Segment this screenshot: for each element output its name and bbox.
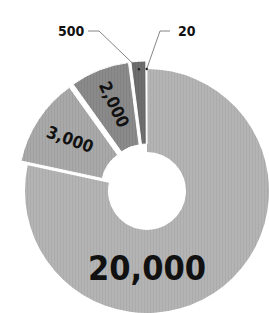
leader-dot <box>138 68 140 70</box>
leader-line-20 <box>147 31 170 69</box>
slice-label-20000: 20,000 <box>88 248 206 288</box>
leader-dot <box>145 68 147 70</box>
slice-label-500: 500 <box>58 23 85 39</box>
slice-label-20: 20 <box>178 23 196 39</box>
donut-chart: 20,0003,0002,00050020 <box>0 0 269 313</box>
